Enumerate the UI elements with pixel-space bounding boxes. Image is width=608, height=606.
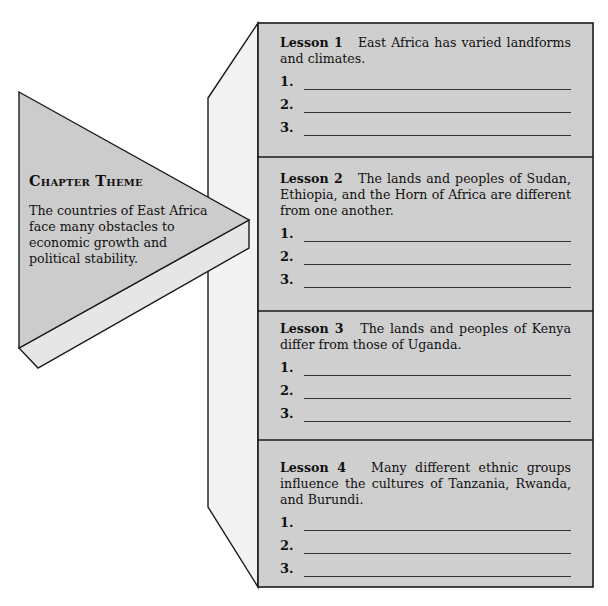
answer-line[interactable] [304,252,571,265]
lesson-2-statement: Lesson 2 The lands and peoples of Sudan,… [280,171,571,219]
answer-line[interactable] [304,123,571,136]
lesson-3-blank-2[interactable]: 2. [280,383,571,399]
answer-line[interactable] [304,100,571,113]
lesson-3-blank-1[interactable]: 1. [280,360,571,376]
box-side-face [208,23,258,587]
lesson-3-section: Lesson 3 The lands and peoples of Kenya … [258,311,593,440]
lesson-2-blank-3[interactable]: 3. [280,272,571,288]
answer-line[interactable] [304,229,571,242]
lesson-1-label: Lesson 1 [280,35,343,50]
lesson-2-label: Lesson 2 [280,171,343,186]
lesson-4-label: Lesson 4 [280,460,346,475]
lesson-1-blank-3[interactable]: 3. [280,120,571,136]
lesson-4-blank-1[interactable]: 1. [280,515,571,531]
lesson-2-blank-1[interactable]: 1. [280,226,571,242]
answer-line[interactable] [304,363,571,376]
answer-line[interactable] [304,77,571,90]
lesson-1-blank-1[interactable]: 1. [280,74,571,90]
lesson-box: Lesson 1 East Africa has varied landform… [258,23,593,587]
chapter-theme-title: Chapter Theme [29,172,219,189]
answer-line[interactable] [304,386,571,399]
chapter-theme: Chapter Theme The countries of East Afri… [29,172,219,267]
lesson-4-statement: Lesson 4 Many different ethnic groups in… [280,460,571,508]
lesson-4-blank-3[interactable]: 3. [280,561,571,577]
answer-line[interactable] [304,409,571,422]
answer-line[interactable] [304,518,571,531]
answer-line[interactable] [304,541,571,554]
chapter-theme-text: The countries of East Africa face many o… [29,203,219,267]
lesson-3-label: Lesson 3 [280,321,343,336]
answer-line[interactable] [304,564,571,577]
lesson-4-section: Lesson 4 Many different ethnic groups in… [258,440,593,587]
lesson-4-blank-2[interactable]: 2. [280,538,571,554]
lesson-3-statement: Lesson 3 The lands and peoples of Kenya … [280,321,571,353]
lesson-3-blank-3[interactable]: 3. [280,406,571,422]
answer-line[interactable] [304,275,571,288]
lesson-2-section: Lesson 2 The lands and peoples of Sudan,… [258,157,593,311]
lesson-1-blank-2[interactable]: 2. [280,97,571,113]
lesson-1-statement: Lesson 1 East Africa has varied landform… [280,35,571,67]
lesson-1-section: Lesson 1 East Africa has varied landform… [258,23,593,157]
lesson-2-blank-2[interactable]: 2. [280,249,571,265]
